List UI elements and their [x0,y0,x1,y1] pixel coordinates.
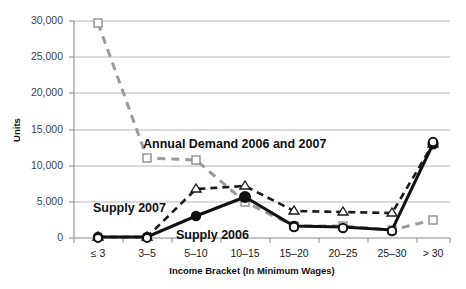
x-axis-title: Income Bracket (In Minimum Wages) [169,265,334,276]
data-point [94,234,102,242]
chart-container: 30,000 25,000 20,000 15,000 10,000 5,000… [0,0,466,289]
data-point [388,227,396,235]
y-tick-label: 0 [57,231,63,243]
y-tick-label: 25,000 [31,50,63,62]
y-tick-label: 5,000 [37,195,63,207]
data-point [143,154,151,162]
annotation-annual-demand: Annual Demand 2006 and 2007 [143,137,326,151]
y-tick-label: 15,000 [31,123,63,135]
x-tick-label: 25–30 [377,247,406,259]
annotation-supply-2007: Supply 2007 [93,201,166,215]
x-tick-label: 15–20 [279,247,308,259]
annotation-supply-2006: Supply 2006 [176,228,249,242]
line-chart: 30,000 25,000 20,000 15,000 10,000 5,000… [0,0,466,289]
x-tick-label: 10–15 [230,247,259,259]
data-point [192,156,200,164]
data-point [143,234,151,242]
y-tick-label: 30,000 [31,14,63,26]
y-tick-label: 10,000 [31,159,63,171]
data-point [191,211,201,221]
x-tick-label: 20–25 [328,247,357,259]
x-tick-label: > 30 [423,247,444,259]
y-tick-label: 20,000 [31,86,63,98]
x-tick-label: 5–10 [184,247,208,259]
data-point [290,223,298,231]
data-point [94,19,102,27]
data-point [339,224,347,232]
data-point [239,191,251,203]
y-axis-title: Units [11,118,22,142]
x-tick-label: 3–5 [138,247,156,259]
x-tick-label: ≤ 3 [91,247,106,259]
data-point [429,216,437,224]
data-point [429,138,437,146]
